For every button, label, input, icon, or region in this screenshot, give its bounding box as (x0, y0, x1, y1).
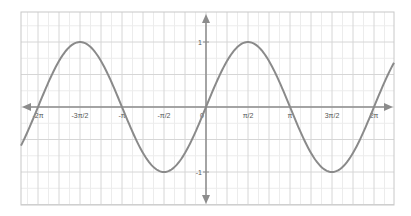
grid-major (21, 12, 394, 205)
plot-frame (21, 12, 394, 205)
y-tick-label: -1 (196, 169, 202, 176)
y-axis-up-arrow-icon (202, 14, 210, 23)
x-axis-right-arrow-icon (384, 103, 393, 111)
x-tick-label: -π/2 (157, 112, 170, 119)
sine-chart: -2π-3π/2-π-π/20π/2π3π/22π 1-1 (0, 0, 411, 216)
x-tick-label: 3π/2 (325, 112, 340, 119)
x-axis-left-arrow-icon (22, 103, 31, 111)
grid-minor (21, 12, 394, 205)
x-tick-label: π/2 (243, 112, 254, 119)
y-tick-label: 1 (198, 39, 202, 46)
x-tick-label: -3π/2 (72, 112, 89, 119)
y-axis-down-arrow-icon (202, 195, 210, 204)
